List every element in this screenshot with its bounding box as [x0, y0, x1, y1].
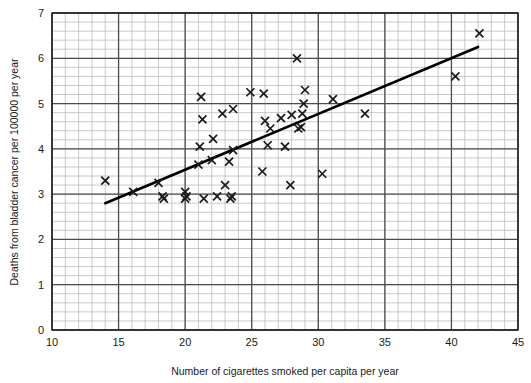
y-tick-label: 1: [38, 279, 44, 291]
chart-canvas: 1015202530354045 01234567 Number of ciga…: [0, 0, 531, 383]
data-point-marker: [246, 88, 254, 96]
data-point-marker: [329, 95, 337, 103]
x-tick-label: 25: [246, 336, 258, 348]
data-point-marker: [198, 115, 206, 123]
x-tick-label: 15: [112, 336, 124, 348]
y-axis-title: Deaths from bladder cancer per 100000 pe…: [8, 58, 20, 286]
data-point-marker: [260, 90, 268, 98]
data-point-marker: [225, 158, 233, 166]
y-tick-label: 4: [38, 143, 44, 155]
data-point-marker: [229, 105, 237, 113]
x-tick-label: 35: [379, 336, 391, 348]
x-tick-label: 20: [179, 336, 191, 348]
data-point-marker: [297, 123, 305, 131]
data-point-marker: [475, 29, 483, 37]
y-tick-label: 7: [38, 7, 44, 19]
y-tick-label: 3: [38, 188, 44, 200]
y-tick-label: 0: [38, 324, 44, 336]
y-axis-tick-labels: 01234567: [38, 7, 44, 336]
x-tick-label: 45: [512, 336, 524, 348]
x-tick-label: 30: [312, 336, 324, 348]
data-point-marker: [318, 170, 326, 178]
data-point-marker: [266, 124, 274, 132]
x-tick-label: 40: [445, 336, 457, 348]
y-tick-label: 6: [38, 52, 44, 64]
y-tick-label: 2: [38, 233, 44, 245]
data-point-marker: [209, 135, 217, 143]
data-point-marker: [200, 195, 208, 203]
x-axis-tick-labels: 1015202530354045: [46, 336, 524, 348]
data-point-marker: [294, 124, 302, 132]
x-tick-label: 10: [46, 336, 58, 348]
scatter-chart: 1015202530354045 01234567 Number of ciga…: [0, 0, 531, 383]
y-tick-label: 5: [38, 98, 44, 110]
x-axis-title: Number of cigarettes smoked per capita p…: [171, 365, 399, 377]
data-point-marker: [361, 110, 369, 118]
